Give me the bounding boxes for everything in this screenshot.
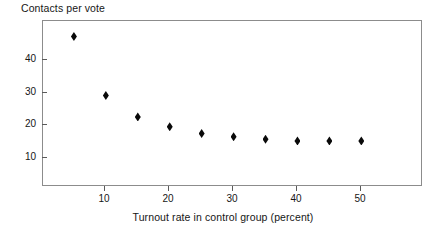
x-tick-label-50: 50	[340, 193, 380, 205]
diamond-marker-icon	[294, 136, 300, 145]
x-tick-30	[232, 186, 233, 191]
y-tick-label-10-wrap: 10	[0, 152, 36, 162]
x-tick-label-40-wrap: 40	[276, 193, 316, 205]
x-tick-label-30: 30	[212, 193, 252, 205]
y-tick-label-30: 30	[2, 87, 36, 97]
diamond-marker-icon	[231, 132, 237, 141]
y-axis-title: Contacts per vote	[21, 2, 105, 15]
x-tick-label-20-wrap: 20	[148, 193, 188, 205]
x-axis-title: Turnout rate in control group (percent)	[0, 211, 446, 224]
x-tick-40	[296, 186, 297, 191]
x-tick-10	[104, 186, 105, 191]
x-tick-label-10: 10	[84, 193, 124, 205]
x-tick-label-20: 20	[148, 193, 188, 205]
x-tick-20	[168, 186, 169, 191]
x-tick-label-30-wrap: 30	[212, 193, 252, 205]
x-tick-label-50-wrap: 50	[340, 193, 380, 205]
diamond-marker-icon	[135, 112, 141, 121]
diamond-marker-icon	[167, 122, 173, 131]
y-tick-label-10: 10	[2, 152, 36, 162]
y-tick-label-30-wrap: 30	[0, 87, 36, 97]
diamond-marker-icon	[358, 136, 364, 145]
y-tick-label-20: 20	[2, 119, 36, 129]
diamond-marker-icon	[199, 129, 205, 138]
diamond-marker-icon	[326, 136, 332, 145]
x-tick-label-10-wrap: 10	[84, 193, 124, 205]
diamond-marker-icon	[103, 91, 109, 100]
y-tick-label-40-wrap: 40	[0, 54, 36, 64]
x-tick-50	[360, 186, 361, 191]
chart-figure: Contacts per vote 40 30 20 10 10 20 30 4…	[0, 0, 446, 231]
x-tick-label-40: 40	[276, 193, 316, 205]
diamond-marker-icon	[263, 135, 269, 144]
diamond-marker-icon	[71, 32, 77, 41]
y-tick-label-40: 40	[2, 54, 36, 64]
y-tick-label-20-wrap: 20	[0, 119, 36, 129]
scatter-plot-area	[42, 20, 422, 186]
